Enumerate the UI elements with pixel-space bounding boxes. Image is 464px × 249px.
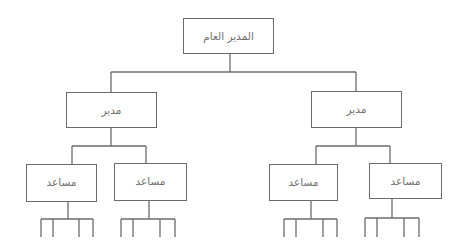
node-manager-right: مدير: [311, 91, 402, 128]
node-assistant-1: مساعد: [26, 164, 97, 202]
node-label: مساعد: [47, 176, 77, 188]
org-chart: المدير العام مدير مدير مساعد مساعد مساعد…: [0, 0, 464, 249]
node-assistant-4: مساعد: [369, 163, 442, 199]
node-manager-left: مدير: [66, 92, 157, 128]
node-label: مدير: [102, 104, 122, 116]
node-label: مساعد: [136, 175, 166, 187]
node-assistant-3: مساعد: [269, 164, 338, 201]
node-general-manager: المدير العام: [183, 18, 274, 54]
node-label: مدير: [347, 103, 367, 115]
node-label: مساعد: [391, 175, 421, 187]
node-label: المدير العام: [203, 30, 254, 42]
node-assistant-2: مساعد: [114, 163, 187, 201]
node-label: مساعد: [289, 176, 319, 188]
